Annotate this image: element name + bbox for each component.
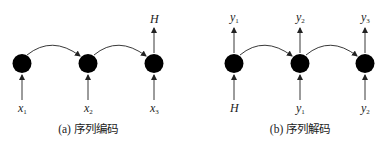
rnn-node bbox=[13, 54, 32, 73]
panel-caption: (a) 序列编码 bbox=[58, 122, 118, 136]
input-label: y1 bbox=[295, 101, 305, 116]
input-label: x2 bbox=[83, 101, 93, 116]
panel-encoding: x1 x2 x3 H (a) 序列编码 bbox=[13, 12, 164, 136]
output-label: y1 bbox=[229, 10, 239, 25]
recurrent-arrow bbox=[94, 45, 146, 56]
recurrent-arrow bbox=[27, 45, 80, 56]
rnn-seq2seq-diagram: x1 x2 x3 H (a) 序列编码 H y1 y2 y1 y2 y3 ( bbox=[0, 0, 387, 146]
input-label: y2 bbox=[360, 101, 370, 116]
panel-decoding: H y1 y2 y1 y2 y3 (b) 序列解码 bbox=[225, 10, 375, 136]
recurrent-arrow bbox=[306, 45, 357, 56]
input-label: H bbox=[229, 101, 240, 115]
recurrent-arrow bbox=[240, 45, 292, 56]
output-label: y2 bbox=[295, 10, 305, 25]
output-label: y3 bbox=[360, 10, 370, 25]
output-label: H bbox=[149, 12, 160, 26]
rnn-node bbox=[225, 54, 244, 73]
rnn-node bbox=[145, 54, 164, 73]
panel-caption: (b) 序列解码 bbox=[270, 122, 330, 136]
rnn-node bbox=[79, 54, 98, 73]
input-label: x3 bbox=[149, 101, 159, 116]
rnn-node bbox=[291, 54, 310, 73]
rnn-node bbox=[356, 54, 375, 73]
input-label: x1 bbox=[17, 101, 27, 116]
